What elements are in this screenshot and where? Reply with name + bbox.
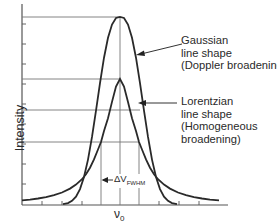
gaussian-label-line-2: line shape bbox=[181, 47, 277, 60]
lorentzian-label: Lorentzian line shape (Homogeneous broad… bbox=[181, 95, 258, 145]
x-axis-label-nu0: ν0 bbox=[114, 207, 124, 223]
lorentzian-label-line-2: line shape bbox=[181, 108, 258, 121]
lorentzian-arrow bbox=[138, 100, 177, 106]
lorentzian-label-line-1: Lorentzian bbox=[181, 95, 258, 108]
fwhm-subscript: FWHM bbox=[127, 180, 146, 186]
reference-lines bbox=[22, 17, 140, 142]
nu-subscript: 0 bbox=[120, 214, 124, 223]
gaussian-label: Gaussian line shape (Doppler broadening) bbox=[181, 34, 277, 72]
lorentzian-label-line-4: broadening) bbox=[181, 133, 258, 146]
fwhm-symbol: ΔV bbox=[114, 173, 127, 184]
lorentzian-label-line-3: (Homogeneous bbox=[181, 120, 258, 133]
gaussian-arrow bbox=[136, 44, 182, 56]
gaussian-label-line-1: Gaussian bbox=[181, 34, 277, 47]
gaussian-label-line-3: (Doppler broadening) bbox=[181, 59, 277, 72]
fwhm-label: ΔVFWHM bbox=[113, 174, 146, 188]
y-axis-label: Intensity bbox=[13, 98, 27, 158]
